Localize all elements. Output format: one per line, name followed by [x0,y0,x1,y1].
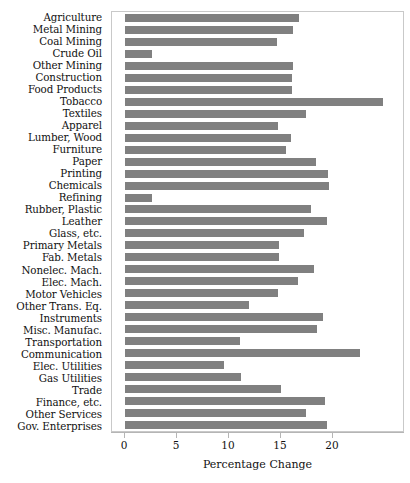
x-tick-label: 0 [121,439,128,451]
bar [125,313,323,321]
bar [125,38,277,46]
category-label: Rubber, Plastic [0,204,106,216]
bar [125,373,241,381]
x-tick-label: 20 [325,439,338,451]
category-label: Transportation [0,336,106,348]
bar-row [112,275,403,287]
bar [125,421,327,429]
bar [125,14,299,22]
category-label: Other Services [0,408,106,420]
bar-row [112,12,403,24]
bar [125,122,278,130]
category-label: Nonelec. Mach. [0,264,106,276]
bar [125,158,316,166]
bar [125,62,293,70]
category-label: Construction [0,71,106,83]
x-tick-mark [280,432,281,438]
bar [125,301,249,309]
bar [125,194,152,202]
category-label: Lumber, Wood [0,131,106,143]
bar-row [112,180,403,192]
bar-row [112,347,403,359]
bar-row [112,239,403,251]
bar [125,170,328,178]
bar-row [112,299,403,311]
bar-row [112,395,403,407]
bar-row [112,156,403,168]
bar-row [112,144,403,156]
bar-row [112,419,403,431]
bar [125,409,306,417]
bar [125,74,292,82]
category-label: Paper [0,155,106,167]
category-label: Finance, etc. [0,396,106,408]
bar-row [112,108,403,120]
category-label: Instruments [0,312,106,324]
category-label: Other Trans. Eq. [0,300,106,312]
x-axis-title: Percentage Change [111,458,404,471]
bar [125,241,279,249]
bar-row [112,24,403,36]
bar [125,98,383,106]
bar [125,134,291,142]
bar [125,361,224,369]
category-label: Coal Mining [0,35,106,47]
bar-row [112,84,403,96]
bar [125,325,317,333]
bar-row [112,383,403,395]
bar [125,182,329,190]
bar [125,229,304,237]
category-label: Glass, etc. [0,228,106,240]
bar [125,110,306,118]
x-tick-label: 15 [273,439,286,451]
bar-row [112,215,403,227]
category-label: Apparel [0,119,106,131]
category-label: Agriculture [0,11,106,23]
x-tick-mark [124,432,125,438]
x-tick-mark [332,432,333,438]
category-label: Refining [0,191,106,203]
category-label: Tobacco [0,95,106,107]
bar [125,86,292,94]
bar-row [112,192,403,204]
bar [125,397,325,405]
bar [125,217,327,225]
category-label: Textiles [0,107,106,119]
category-label: Leather [0,216,106,228]
bar [125,277,298,285]
x-axis-ticks: 05101520 [111,432,404,439]
bar-row [112,287,403,299]
category-label: Trade [0,384,106,396]
bar [125,289,278,297]
bar-row [112,204,403,216]
category-label: Chemicals [0,179,106,191]
bar-row [112,168,403,180]
x-tick-mark [228,432,229,438]
bar [125,205,311,213]
bar-row [112,48,403,60]
category-label: Misc. Manufac. [0,324,106,336]
x-tick-label: 10 [221,439,234,451]
category-label: Motor Vehicles [0,288,106,300]
bar-row [112,371,403,383]
bar-row [112,120,403,132]
bar [125,146,286,154]
bar [125,337,240,345]
bar-row [112,72,403,84]
category-label: Elec. Mach. [0,276,106,288]
category-label: Other Mining [0,59,106,71]
category-label: Gov. Enterprises [0,420,106,432]
bar [125,26,293,34]
category-axis: AgricultureMetal MiningCoal MiningCrude … [0,11,106,432]
bar-row [112,263,403,275]
percentage-change-bar-chart: AgricultureMetal MiningCoal MiningCrude … [0,0,410,483]
category-label: Metal Mining [0,23,106,35]
category-label: Food Products [0,83,106,95]
category-label: Communication [0,348,106,360]
category-label: Furniture [0,143,106,155]
bar-row [112,407,403,419]
bar [125,265,314,273]
bars-container [112,12,403,431]
bar-row [112,323,403,335]
category-label: Printing [0,167,106,179]
